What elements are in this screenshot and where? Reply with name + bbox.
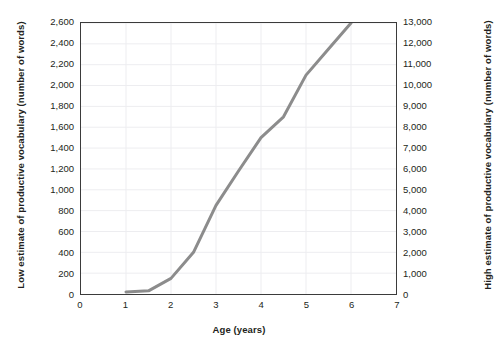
y-axis-right-tick-label: 1,000 — [403, 269, 427, 279]
y-axis-right-tick-label: 11,000 — [403, 59, 431, 69]
y-axis-left-tick-label: 2,200 — [26, 59, 74, 69]
x-axis-tick-label: 7 — [387, 299, 407, 311]
y-axis-left-tick-label: 1,200 — [26, 164, 74, 174]
y-axis-left-tick-label: 1,400 — [26, 143, 74, 153]
data-series-line — [81, 23, 396, 294]
y-axis-right-tick-label: 10,000 — [403, 80, 432, 90]
x-axis-tick-label: 3 — [206, 299, 226, 311]
y-axis-left-tick-label: 600 — [26, 227, 74, 237]
y-axis-right-tick-label: 5,000 — [403, 185, 427, 195]
y-axis-right-title: High estimate of productive vocabulary (… — [481, 5, 495, 305]
y-axis-left-tick-label: 800 — [26, 206, 74, 216]
y-axis-right-tick-label: 12,000 — [403, 38, 432, 48]
plot-area — [80, 22, 397, 295]
x-axis-tick-label: 4 — [251, 299, 271, 311]
y-axis-right-tick-label: 2,000 — [403, 248, 427, 258]
x-axis-title: Age (years) — [80, 324, 398, 335]
x-axis-ticks: 01234567 — [80, 299, 397, 313]
y-axis-right-tick-label: 7,000 — [403, 143, 427, 153]
y-axis-right-tick-label: 9,000 — [403, 101, 427, 111]
y-axis-right-ticks: 01,0002,0003,0004,0005,0006,0007,0008,00… — [403, 22, 453, 295]
y-axis-left-tick-label: 2,600 — [26, 17, 74, 27]
x-axis-tick-label: 1 — [115, 299, 135, 311]
y-axis-right-tick-label: 13,000 — [403, 17, 432, 27]
y-axis-right-tick-label: 6,000 — [403, 164, 427, 174]
x-axis-tick-label: 6 — [342, 299, 362, 311]
y-axis-left-tick-label: 1,000 — [26, 185, 74, 195]
y-axis-left-ticks: 02004006008001,0001,2001,4001,6001,8002,… — [26, 22, 74, 295]
y-axis-left-tick-label: 400 — [26, 248, 74, 258]
x-axis-tick-label: 0 — [70, 299, 90, 311]
y-axis-right-tick-label: 4,000 — [403, 206, 427, 216]
y-axis-left-tick-label: 1,600 — [26, 122, 74, 132]
x-axis-tick-label: 2 — [161, 299, 181, 311]
x-axis-tick-label: 5 — [296, 299, 316, 311]
y-axis-right-tick-label: 8,000 — [403, 122, 427, 132]
y-axis-left-tick-label: 2,400 — [26, 38, 74, 48]
y-axis-left-tick-label: 200 — [26, 269, 74, 279]
y-axis-left-tick-label: 1,800 — [26, 101, 74, 111]
y-axis-left-tick-label: 2,000 — [26, 80, 74, 90]
y-axis-left-tick-label: 0 — [26, 290, 74, 300]
y-axis-right-tick-label: 3,000 — [403, 227, 427, 237]
